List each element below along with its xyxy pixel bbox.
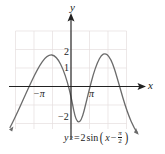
equation-fraction-numerator: π	[118, 130, 122, 137]
sine-curve-group	[9, 54, 139, 135]
equation-fraction: π 2	[118, 130, 122, 146]
equation-open-paren: (	[100, 131, 104, 145]
y-tick-label-2: 2	[64, 47, 69, 57]
y-tick-label-neg2: −2	[58, 112, 69, 122]
equation-equals: =	[74, 132, 80, 143]
equation-lhs-subscript: 2	[69, 134, 73, 142]
x-tick-label-pi: π	[89, 89, 94, 99]
equation-function-name: sin	[87, 132, 99, 143]
x-axis-label: x	[148, 80, 153, 91]
equation-minus-sign: −	[111, 132, 117, 143]
sine-curve-path	[10, 54, 138, 133]
equation-fraction-denominator: 2	[118, 138, 122, 145]
equation-annotation: y2 = 2 sin ( x − π 2 )	[64, 130, 129, 146]
equation-close-paren: )	[125, 131, 129, 145]
equation-lhs-variable: y	[64, 132, 68, 143]
sine-graph-figure: y x 2 1 −2 −π π y2 = 2 sin ( x − π 2 )	[0, 0, 165, 154]
y-axis-label: y	[70, 2, 75, 13]
x-axis	[9, 83, 146, 90]
equation-amplitude: 2	[81, 132, 86, 143]
x-tick-label-neg-pi: −π	[33, 89, 45, 99]
equation-argument-variable: x	[105, 132, 109, 143]
y-tick-label-1: 1	[64, 63, 69, 73]
